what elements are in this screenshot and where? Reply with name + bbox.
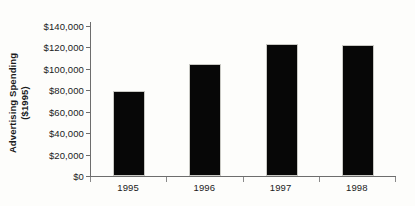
x-axis-tick-label: 1997 [270, 182, 292, 193]
x-axis-tick-label: 1995 [117, 182, 139, 193]
y-axis-tick-labels: $0$20,000$40,000$60,000$80,000$100,000$1… [34, 0, 86, 206]
bar [266, 44, 298, 176]
y-axis-title: Advertising Spending ($1995) [0, 0, 36, 206]
y-axis-tick-label: $40,000 [49, 128, 84, 139]
y-axis-tick-label: $20,000 [49, 149, 84, 160]
x-axis-tick-label: 1998 [346, 182, 368, 193]
y-axis-tick-mark [86, 90, 90, 91]
x-axis-tick-labels: 1995199619971998 [90, 182, 395, 200]
y-axis-tick-mark [86, 69, 90, 70]
y-axis-line [90, 22, 91, 177]
y-axis-tick-mark [86, 133, 90, 134]
bar [113, 91, 145, 176]
y-axis-title-line-1: Advertising Spending [7, 53, 19, 153]
y-axis-tick-mark [86, 26, 90, 27]
y-axis-tick-label: $80,000 [49, 85, 84, 96]
y-axis-title-line-2: ($1995) [18, 53, 30, 153]
y-axis-tick-mark [86, 155, 90, 156]
y-axis-tick-label: $60,000 [49, 106, 84, 117]
bar-chart: Advertising Spending ($1995) $0$20,000$4… [0, 0, 415, 206]
bar [189, 64, 221, 177]
y-axis-tick-label: $0 [73, 171, 84, 182]
y-axis-tick-label: $100,000 [44, 63, 84, 74]
y-axis-tick-mark [86, 112, 90, 113]
x-axis-tick-label: 1996 [193, 182, 215, 193]
bar [342, 45, 374, 176]
x-axis-tick-mark [395, 177, 396, 182]
y-axis-tick-mark [86, 47, 90, 48]
y-axis-tick-label: $120,000 [44, 42, 84, 53]
plot-area [90, 26, 395, 176]
y-axis-tick-label: $140,000 [44, 21, 84, 32]
